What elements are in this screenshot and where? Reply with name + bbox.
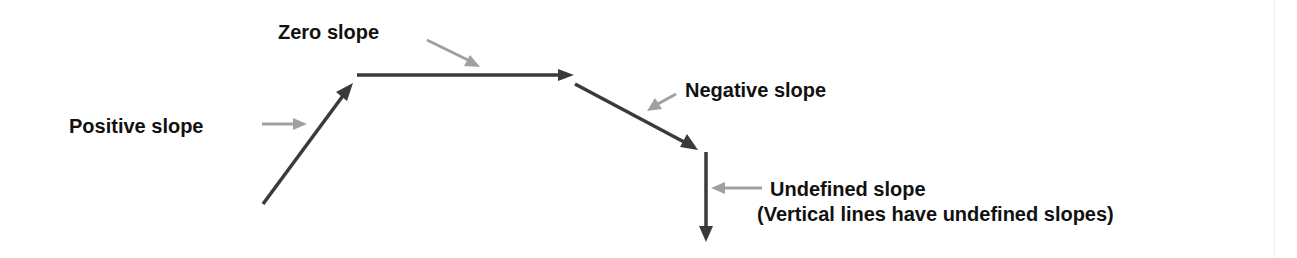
zero-slope-label: Zero slope bbox=[278, 20, 379, 44]
negative-slope-arrow bbox=[575, 84, 698, 150]
negative-slope-pointer-arrow bbox=[647, 94, 676, 111]
undefined-slope-pointer-arrow bbox=[711, 182, 762, 194]
undefined-slope-label: Undefined slope bbox=[770, 177, 926, 201]
zero-slope-arrow bbox=[357, 69, 574, 81]
undefined-slope-note: (Vertical lines have undefined slopes) bbox=[757, 202, 1114, 226]
negative-slope-label: Negative slope bbox=[685, 78, 826, 102]
positive-slope-label: Positive slope bbox=[69, 114, 204, 138]
zero-slope-pointer-arrow bbox=[427, 40, 480, 67]
undefined-slope-arrow bbox=[699, 152, 713, 242]
positive-slope-arrow bbox=[263, 83, 353, 204]
positive-slope-pointer-arrow bbox=[262, 118, 307, 130]
